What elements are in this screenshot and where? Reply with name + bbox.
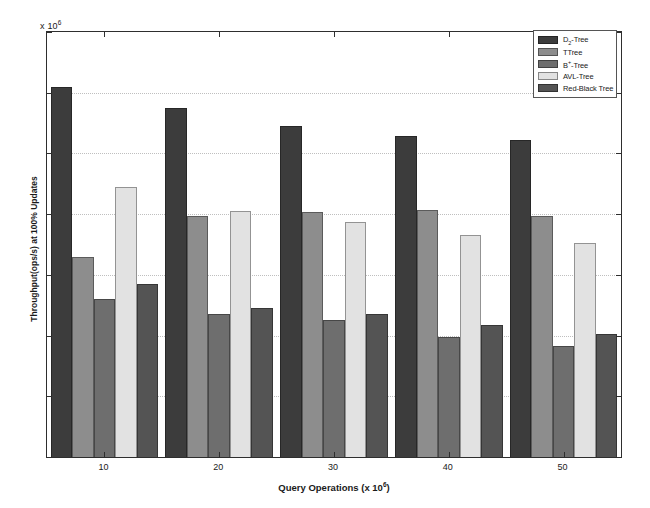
legend-label: D2-Tree (563, 35, 588, 46)
bar-b-tree-30 (323, 320, 345, 457)
bar-avl-tree-20 (230, 211, 252, 457)
x-axis-tick-mark (104, 452, 105, 457)
y-axis-tick-mark (616, 396, 621, 397)
legend-label: B+-Tree (563, 59, 588, 70)
x-axis-tick-mark (564, 452, 565, 457)
legend-swatch (538, 60, 558, 68)
y-exponent-prefix: x 10 (40, 21, 58, 31)
y-axis-tick-mark (616, 214, 621, 215)
y-axis-tick-mark (616, 336, 621, 337)
legend-item[interactable]: B+-Tree (538, 58, 613, 70)
bar-ttree-10 (72, 257, 94, 457)
x-axis-tick-mark (219, 452, 220, 457)
x-axis-tick-label: 30 (313, 462, 353, 472)
legend-label: TTree (563, 48, 582, 57)
y-axis-tick-mark (47, 93, 52, 94)
y-axis-tick-mark (47, 214, 52, 215)
bar-d2-tree-50 (510, 140, 532, 457)
bar-d2-tree-20 (165, 108, 187, 457)
y-exponent-power: 6 (58, 19, 62, 26)
x-axis-tick-label: 10 (83, 462, 123, 472)
x-axis-tick-mark (334, 32, 335, 37)
x-axis-title-text: Query Operations (x 10 (278, 482, 383, 493)
y-axis-tick-mark (616, 275, 621, 276)
y-axis-exponent-label: x 106 (40, 19, 62, 31)
bar-avl-tree-30 (345, 222, 367, 457)
bar-red-black-tree-10 (137, 284, 159, 457)
legend-label: AVL-Tree (563, 72, 593, 81)
bar-avl-tree-50 (574, 243, 596, 457)
x-axis-title-close: ) (387, 482, 390, 493)
legend-item[interactable]: TTree (538, 46, 613, 58)
bar-red-black-tree-40 (481, 325, 503, 457)
bar-d2-tree-30 (280, 126, 302, 457)
legend-label: Red-Black Tree (563, 84, 613, 93)
legend-item[interactable]: Red-Black Tree (538, 82, 613, 94)
bar-avl-tree-40 (460, 235, 482, 457)
bar-b-tree-50 (553, 346, 575, 457)
legend-swatch (538, 84, 558, 92)
legend-item[interactable]: AVL-Tree (538, 70, 613, 82)
bar-ttree-30 (302, 212, 324, 457)
y-axis-title: Throughput(ops/s) at 100% Updates (29, 134, 39, 364)
legend-swatch (538, 48, 558, 56)
bar-b-tree-20 (208, 314, 230, 457)
bar-ttree-20 (187, 216, 209, 457)
bar-red-black-tree-20 (251, 308, 273, 457)
legend-swatch (538, 36, 558, 44)
bar-b-tree-10 (94, 299, 116, 457)
chart-figure: x 106 01234567 Query Operations (x 106) … (0, 0, 650, 508)
y-axis-tick-mark (47, 457, 52, 458)
x-axis-title: Query Operations (x 106) (46, 481, 622, 493)
chart-legend: D2-TreeTTreeB+-TreeAVL-TreeRed-Black Tre… (533, 30, 617, 98)
legend-swatch (538, 72, 558, 80)
x-axis-tick-mark (104, 32, 105, 37)
y-axis-tick-mark (616, 153, 621, 154)
gridline (47, 153, 621, 154)
bar-red-black-tree-30 (366, 314, 388, 457)
bar-avl-tree-10 (115, 187, 137, 457)
bar-ttree-50 (531, 216, 553, 457)
bar-d2-tree-40 (395, 136, 417, 457)
x-axis-tick-label: 50 (543, 462, 583, 472)
y-axis-tick-mark (47, 396, 52, 397)
y-axis-tick-mark (616, 457, 621, 458)
x-axis-tick-mark (449, 452, 450, 457)
x-axis-tick-label: 40 (428, 462, 468, 472)
legend-item[interactable]: D2-Tree (538, 34, 613, 46)
y-axis-tick-mark (47, 32, 52, 33)
y-axis-tick-mark (47, 336, 52, 337)
x-axis-tick-mark (449, 32, 450, 37)
y-axis-tick-mark (47, 275, 52, 276)
x-axis-tick-mark (334, 452, 335, 457)
bar-d2-tree-10 (51, 87, 73, 457)
bar-b-tree-40 (438, 337, 460, 457)
x-axis-tick-label: 20 (198, 462, 238, 472)
bar-red-black-tree-50 (596, 334, 618, 457)
x-axis-tick-mark (219, 32, 220, 37)
bar-ttree-40 (417, 210, 439, 457)
y-axis-tick-mark (47, 153, 52, 154)
